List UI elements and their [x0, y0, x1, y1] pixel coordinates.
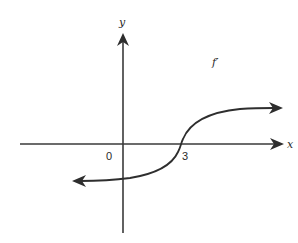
x-axis-label: x — [287, 138, 294, 151]
x-tick-label-3: 3 — [182, 150, 188, 162]
x-axis — [20, 138, 284, 150]
function-label: f′ — [211, 56, 219, 69]
y-axis — [117, 33, 129, 233]
origin-label: 0 — [106, 150, 112, 162]
y-axis-label: y — [118, 16, 126, 29]
graph-canvas: y x 0 3 f′ — [0, 0, 298, 243]
